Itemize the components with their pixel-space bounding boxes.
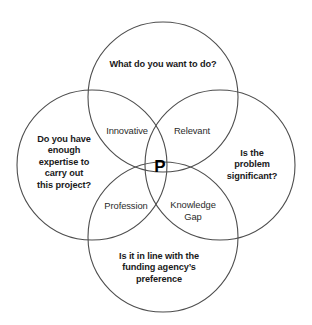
- venn-diagram: What do you want to do? Do you have enou…: [0, 0, 312, 325]
- circle-top: [88, 22, 238, 172]
- circle-bottom: [88, 162, 238, 312]
- venn-circles-svg: [0, 0, 312, 325]
